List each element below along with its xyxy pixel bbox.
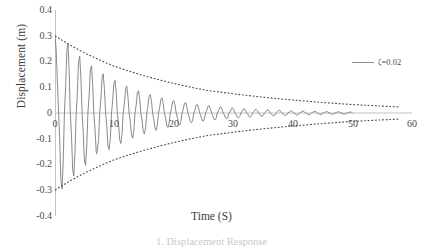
figure-caption: 1. Displacement Response [0, 236, 423, 247]
x-tick-label: 50 [338, 119, 368, 129]
x-tick-label: 40 [278, 119, 308, 129]
x-tick-label: 10 [99, 119, 129, 129]
x-tick-label: 30 [218, 119, 248, 129]
chart-legend: ζ=0.02 [352, 57, 401, 67]
legend-entry-label: ζ=0.02 [378, 57, 401, 67]
chart-figure: Displacement (m) 0.4 0.3 0.2 0.1 0 -0.1 … [0, 0, 423, 247]
x-axis-title: Time (S) [0, 210, 423, 222]
x-tick-label: 0 [40, 119, 70, 129]
legend-line-swatch [352, 62, 374, 63]
x-tick-label: 60 [397, 119, 423, 129]
x-tick-label: 20 [159, 119, 189, 129]
